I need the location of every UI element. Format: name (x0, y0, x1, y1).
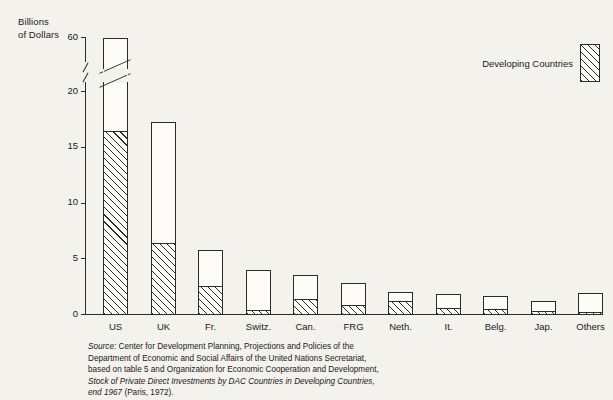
y-tick-15: 15 (85, 147, 86, 148)
y-tick-20: 20 (85, 91, 86, 92)
x-label-can: Can. (295, 321, 315, 332)
x-label-it: It. (445, 321, 453, 332)
x-label-others: Others (576, 321, 605, 332)
x-label-switz: Switz. (246, 321, 271, 332)
bar-developing-belg (483, 309, 508, 315)
x-label-jap: Jap. (535, 321, 553, 332)
bar-developing-jap (531, 311, 556, 316)
x-label-frg: FRG (343, 321, 363, 332)
source-line-3: based on table 5 and Organization for Ec… (88, 364, 518, 376)
y-tick-label-5: 5 (73, 252, 78, 263)
y-tick-label-20: 20 (67, 85, 78, 96)
source-line-5-italic: end 1967 (88, 388, 122, 397)
bar-developing-uk (151, 243, 176, 316)
legend: Developing Countries (482, 44, 600, 82)
source-lead: Source: (88, 342, 116, 351)
source-line-5-rest: (Paris, 1972). (122, 388, 173, 397)
x-label-us: US (109, 321, 122, 332)
x-label-fr: Fr. (205, 321, 216, 332)
y-axis-title: Billions of Dollars (18, 16, 59, 41)
x-label-belg: Belg. (485, 321, 507, 332)
x-label-neth: Neth. (389, 321, 412, 332)
bar-developing-neth (388, 301, 413, 316)
bar-developing-fr (198, 286, 223, 315)
x-label-uk: UK (157, 321, 170, 332)
bar-developing-switz (246, 310, 271, 315)
bar-developing-can (293, 299, 318, 315)
us-bar-edge-mask2 (127, 69, 128, 82)
y-tick-label-0: 0 (73, 308, 78, 319)
us-bar-edge-mask (103, 69, 104, 82)
bar-total-switz (246, 270, 271, 315)
legend-swatch-hatch-icon (580, 44, 600, 82)
y-tick-60: 60 (85, 37, 86, 38)
y-axis-title-line2: of Dollars (18, 29, 59, 40)
y-tick-label-60: 60 (67, 31, 78, 42)
source-line-4: Stock of Private Direct Investments by D… (88, 376, 518, 388)
bar-developing-frg (341, 305, 366, 315)
legend-label-developing-countries: Developing Countries (482, 58, 573, 69)
y-tick-label-15: 15 (67, 140, 78, 151)
source-line-5: end 1967 (Paris, 1972). (88, 387, 518, 399)
y-tick-5: 5 (85, 258, 86, 259)
bar-developing-it (436, 308, 461, 315)
y-tick-label-10: 10 (67, 196, 78, 207)
bar-developing-others (578, 312, 603, 315)
y-tick-10: 10 (85, 203, 86, 204)
bar-developing-us (103, 131, 128, 315)
source-note: Source: Center for Development Planning,… (88, 341, 518, 399)
source-line-1-rest: Center for Development Planning, Project… (116, 342, 354, 351)
source-line-2: Department of Economic and Social Affair… (88, 353, 518, 365)
y-tick-0: 0 (85, 314, 86, 315)
source-line-1: Source: Center for Development Planning,… (88, 341, 518, 353)
y-axis-title-line1: Billions (18, 16, 49, 27)
chart-figure: Billions of Dollars 60 20 15 10 5 0 (0, 0, 613, 400)
